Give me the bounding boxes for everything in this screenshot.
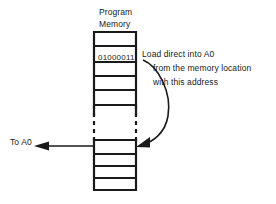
annotation-line-1: Load direct into A0 (142, 49, 214, 60)
annotation-line-2: from the memory location (153, 63, 251, 74)
memory-cell-binary-value: 01000011 (98, 52, 135, 63)
memory-diagram-graphics (0, 0, 276, 204)
diagram-canvas: Program Memory 01000011 Load direct into… (0, 0, 276, 204)
annotation-curve-arrow-head (136, 137, 150, 148)
column-title-line2: Memory (99, 19, 130, 30)
column-title-line1: Program (99, 7, 132, 18)
annotation-line-3: with this address (153, 77, 218, 88)
output-arrow-head (34, 142, 49, 151)
output-destination-label: To A0 (10, 137, 32, 148)
